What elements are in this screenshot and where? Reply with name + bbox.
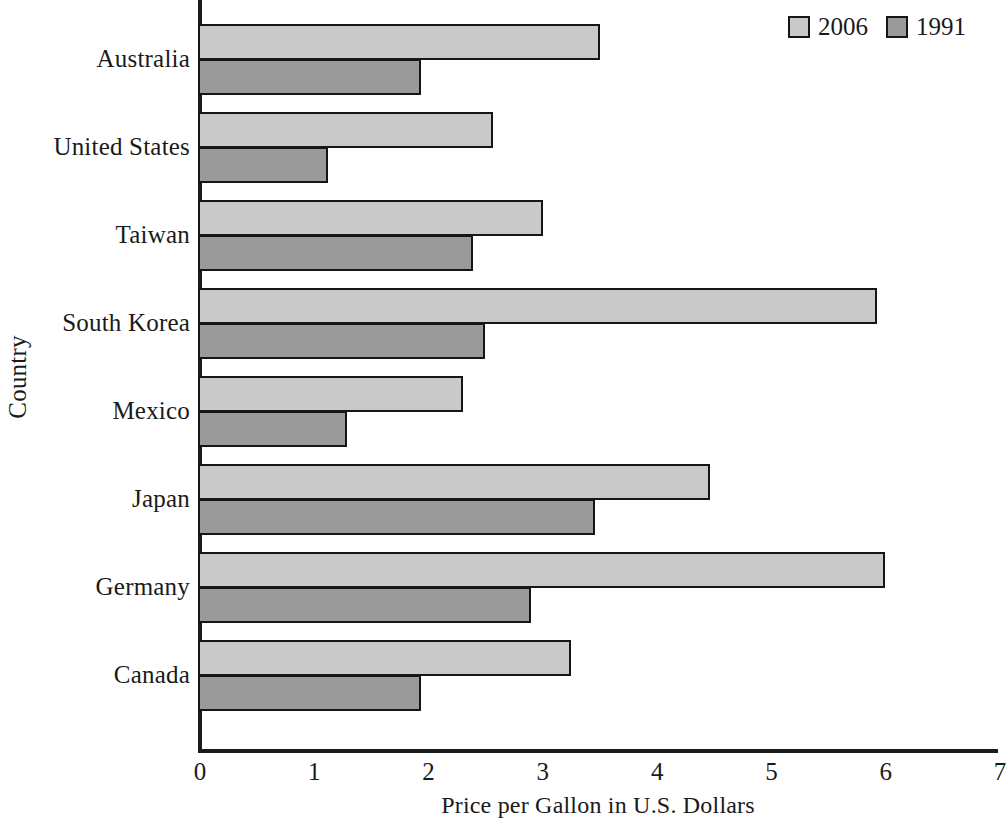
bar-2006-japan bbox=[198, 464, 710, 500]
bar-2006-south-korea bbox=[198, 288, 877, 324]
x-tick-label: 6 bbox=[856, 758, 916, 786]
legend-entry: 2006 bbox=[788, 14, 868, 39]
category-label: Australia bbox=[0, 45, 190, 73]
bar-1991-australia bbox=[198, 59, 421, 95]
bar-2006-united-states bbox=[198, 112, 493, 148]
x-axis-line bbox=[198, 749, 998, 753]
x-tick-label: 3 bbox=[513, 758, 573, 786]
x-tick-label: 1 bbox=[284, 758, 344, 786]
bar-2006-canada bbox=[198, 640, 571, 676]
bar-1991-united-states bbox=[198, 147, 328, 183]
bar-1991-taiwan bbox=[198, 235, 473, 271]
bar-1991-mexico bbox=[198, 411, 347, 447]
x-tick-label: 5 bbox=[741, 758, 801, 786]
category-label: Taiwan bbox=[0, 221, 190, 249]
x-tick-label: 2 bbox=[399, 758, 459, 786]
legend-label: 1991 bbox=[916, 14, 966, 39]
category-label: Mexico bbox=[0, 397, 190, 425]
legend-label: 2006 bbox=[818, 14, 868, 39]
legend-swatch-icon bbox=[886, 16, 908, 38]
bar-1991-south-korea bbox=[198, 323, 485, 359]
legend-entry: 1991 bbox=[886, 14, 966, 39]
x-tick-label: 4 bbox=[627, 758, 687, 786]
bar-1991-germany bbox=[198, 587, 531, 623]
category-label: South Korea bbox=[0, 309, 190, 337]
bar-2006-taiwan bbox=[198, 200, 543, 236]
legend-swatch-icon bbox=[788, 16, 810, 38]
category-label: Canada bbox=[0, 661, 190, 689]
bar-2006-mexico bbox=[198, 376, 463, 412]
bar-chart: Country AustraliaUnited StatesTaiwanSout… bbox=[0, 0, 1007, 823]
bar-1991-canada bbox=[198, 675, 421, 711]
x-tick-label: 7 bbox=[970, 758, 1007, 786]
category-label: Japan bbox=[0, 485, 190, 513]
x-axis-title: Price per Gallon in U.S. Dollars bbox=[198, 792, 998, 819]
category-label: Germany bbox=[0, 573, 190, 601]
bar-1991-japan bbox=[198, 499, 595, 535]
x-tick-label: 0 bbox=[170, 758, 230, 786]
category-label: United States bbox=[0, 133, 190, 161]
chart-legend: 20061991 bbox=[788, 14, 966, 39]
bar-2006-germany bbox=[198, 552, 885, 588]
bar-2006-australia bbox=[198, 24, 600, 60]
